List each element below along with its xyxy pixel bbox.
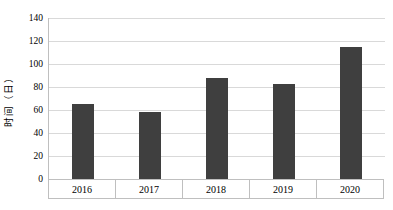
gridline-100 <box>49 64 385 65</box>
x-label-2018: 2018 <box>182 180 249 198</box>
y-tick-label-140: 140 <box>0 13 43 23</box>
y-tick-label-100: 100 <box>0 59 43 69</box>
y-tick-label-80: 80 <box>0 82 43 92</box>
bar-2019 <box>273 84 295 179</box>
x-label-2016: 2016 <box>49 180 115 198</box>
bar-2016 <box>72 104 94 179</box>
x-label-2020: 2020 <box>316 180 383 198</box>
bar-2017 <box>139 112 161 179</box>
plot-area <box>48 18 385 179</box>
x-axis-label-row: 20162017201820192020 <box>48 179 384 199</box>
x-label-2019: 2019 <box>249 180 316 198</box>
bar-chart: 时间（日） 020406080100120140 201620172018201… <box>0 0 393 210</box>
gridline-140 <box>49 18 385 19</box>
bar-2018 <box>206 78 228 179</box>
y-tick-label-40: 40 <box>0 128 43 138</box>
y-tick-label-20: 20 <box>0 151 43 161</box>
y-tick-label-0: 0 <box>0 174 43 184</box>
gridline-120 <box>49 41 385 42</box>
bar-2020 <box>340 47 362 179</box>
y-axis-title: 时间（日） <box>1 67 15 131</box>
x-label-2017: 2017 <box>115 180 182 198</box>
y-tick-label-120: 120 <box>0 36 43 46</box>
y-tick-label-60: 60 <box>0 105 43 115</box>
